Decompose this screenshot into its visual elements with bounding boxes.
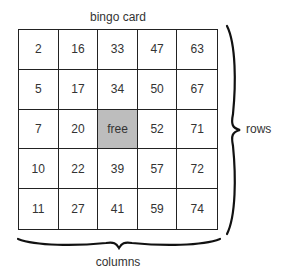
cell: 47 — [138, 30, 178, 70]
cell: 11 — [19, 189, 59, 229]
cell: 7 — [19, 110, 59, 150]
bingo-grid: 2 16 33 47 63 5 17 34 50 67 7 20 free 52… — [18, 29, 218, 230]
cell: 52 — [138, 110, 178, 150]
cell: 34 — [98, 70, 138, 110]
card-title: bingo card — [18, 10, 218, 24]
cell: 10 — [19, 149, 59, 189]
cell: 22 — [59, 149, 99, 189]
cell: 74 — [177, 189, 217, 229]
free-cell: free — [98, 110, 138, 150]
columns-label: columns — [18, 255, 218, 269]
cell: 57 — [138, 149, 178, 189]
cell: 20 — [59, 110, 99, 150]
cell: 27 — [59, 189, 99, 229]
cell: 17 — [59, 70, 99, 110]
cell: 71 — [177, 110, 217, 150]
rows-brace-icon — [224, 24, 244, 236]
cell: 59 — [138, 189, 178, 229]
cell: 41 — [98, 189, 138, 229]
cell: 39 — [98, 149, 138, 189]
cell: 67 — [177, 70, 217, 110]
cell: 33 — [98, 30, 138, 70]
cell: 2 — [19, 30, 59, 70]
cell: 63 — [177, 30, 217, 70]
cell: 5 — [19, 70, 59, 110]
cell: 72 — [177, 149, 217, 189]
cell: 16 — [59, 30, 99, 70]
rows-label: rows — [246, 122, 271, 136]
columns-brace-icon — [16, 236, 222, 252]
cell: 50 — [138, 70, 178, 110]
